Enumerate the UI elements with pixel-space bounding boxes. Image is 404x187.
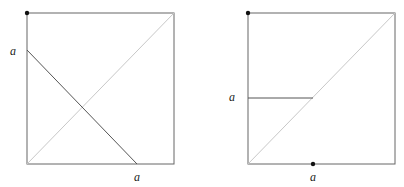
diagram-canvas: a a a a	[0, 0, 404, 187]
right-label-a-bottom: a	[310, 170, 316, 184]
right-diagram: a a	[229, 11, 395, 184]
left-diagram: a a	[10, 11, 174, 184]
left-label-a-side: a	[10, 44, 16, 58]
left-corner-dot	[25, 11, 29, 15]
left-label-a-bottom: a	[134, 170, 140, 184]
right-diagonal	[248, 13, 395, 164]
right-bottom-dot	[311, 162, 315, 166]
left-diagonal	[27, 13, 174, 164]
right-corner-dot	[246, 11, 250, 15]
right-label-a-side: a	[229, 90, 235, 104]
